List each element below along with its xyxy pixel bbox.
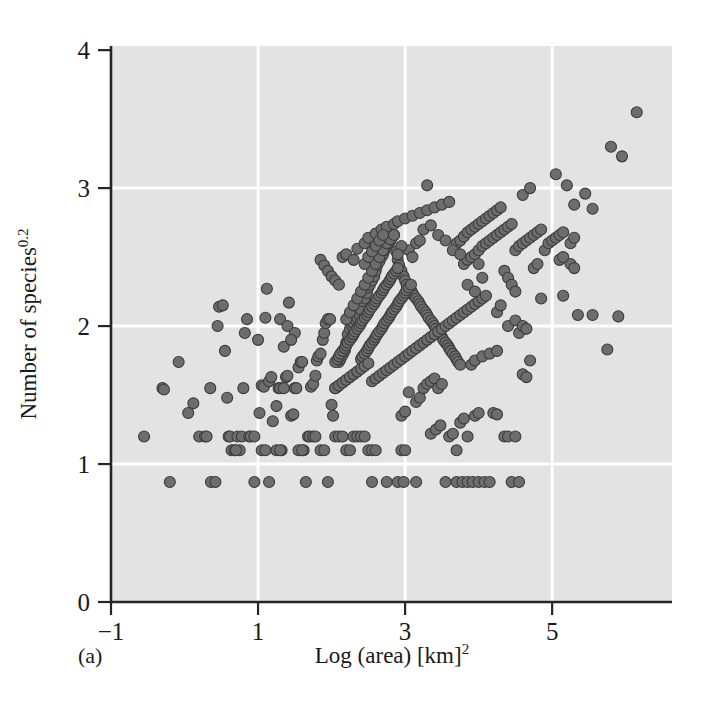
data-point <box>617 151 628 162</box>
data-point <box>495 300 506 311</box>
data-point <box>260 312 271 323</box>
data-point <box>558 290 569 301</box>
data-point <box>558 227 569 238</box>
data-point <box>455 249 466 260</box>
data-point <box>572 310 583 321</box>
data-point <box>455 359 466 370</box>
data-point <box>367 476 378 487</box>
data-point <box>310 370 321 381</box>
data-point <box>400 445 411 456</box>
data-point <box>525 183 536 194</box>
y-tick-label: 0 <box>78 589 91 616</box>
data-point <box>378 230 389 241</box>
data-point <box>411 476 422 487</box>
data-point <box>514 476 525 487</box>
data-point <box>495 202 506 213</box>
y-tick-label: 4 <box>78 37 91 64</box>
data-point <box>525 355 536 366</box>
data-point <box>278 383 289 394</box>
data-point <box>400 406 411 417</box>
data-point <box>322 476 333 487</box>
x-tick-label: 5 <box>546 618 559 645</box>
data-point <box>398 476 409 487</box>
data-point <box>333 279 344 290</box>
y-tick-label: 1 <box>78 451 91 478</box>
y-axis-title: Number of species0.2 <box>15 228 41 419</box>
data-point <box>249 431 260 442</box>
data-point <box>510 286 521 297</box>
data-point <box>217 300 228 311</box>
data-point <box>348 254 359 265</box>
data-point <box>219 345 230 356</box>
data-point <box>319 445 330 456</box>
data-point <box>440 476 451 487</box>
data-point <box>492 345 503 356</box>
data-point <box>205 383 216 394</box>
data-point <box>260 445 271 456</box>
data-point <box>458 413 469 424</box>
data-point <box>422 180 433 191</box>
data-point <box>506 218 517 229</box>
data-point <box>363 358 374 369</box>
data-point <box>492 409 503 420</box>
data-point <box>602 344 613 355</box>
data-point <box>267 416 278 427</box>
data-point <box>392 263 403 274</box>
data-point <box>310 431 321 442</box>
data-point <box>451 445 462 456</box>
data-point <box>275 445 286 456</box>
data-point <box>561 180 572 191</box>
data-point <box>315 348 326 359</box>
data-point <box>266 372 277 383</box>
data-point <box>392 249 403 260</box>
data-point <box>291 383 302 394</box>
data-point <box>359 431 370 442</box>
data-point <box>261 283 272 294</box>
data-point <box>435 420 446 431</box>
data-point <box>328 410 339 421</box>
data-point <box>444 196 455 207</box>
data-point <box>370 445 381 456</box>
data-point <box>510 431 521 442</box>
data-point <box>425 220 436 231</box>
data-point <box>580 188 591 199</box>
data-point <box>300 476 311 487</box>
data-point <box>569 263 580 274</box>
data-point <box>271 401 282 412</box>
data-point <box>473 407 484 418</box>
data-point <box>344 445 355 456</box>
panel-label: (a) <box>78 643 102 668</box>
data-point <box>297 356 308 367</box>
data-point <box>326 399 337 410</box>
data-point <box>569 199 580 210</box>
data-point <box>536 224 547 235</box>
data-point <box>521 372 532 383</box>
data-point <box>282 370 293 381</box>
data-point <box>447 428 458 439</box>
data-point <box>297 445 308 456</box>
data-point <box>558 252 569 263</box>
data-point <box>139 431 150 442</box>
data-point <box>212 321 223 332</box>
x-tick-label: −1 <box>98 618 125 645</box>
data-point <box>532 258 543 269</box>
data-point <box>550 169 561 180</box>
scatter-plot-svg: −1135 01234 Log (area) [km]2 Number of s… <box>0 0 705 707</box>
data-point <box>164 476 175 487</box>
data-point <box>477 272 488 283</box>
data-point <box>222 392 233 403</box>
data-point <box>254 407 265 418</box>
data-point <box>249 476 260 487</box>
data-point <box>381 476 392 487</box>
data-point <box>587 203 598 214</box>
data-point <box>264 476 275 487</box>
x-tick-label: 3 <box>399 618 412 645</box>
data-point <box>403 387 414 398</box>
data-point <box>210 476 221 487</box>
data-point <box>414 235 425 246</box>
data-point <box>239 327 250 338</box>
data-point <box>201 431 212 442</box>
data-point <box>337 431 348 442</box>
data-point <box>286 334 297 345</box>
data-point <box>173 356 184 367</box>
